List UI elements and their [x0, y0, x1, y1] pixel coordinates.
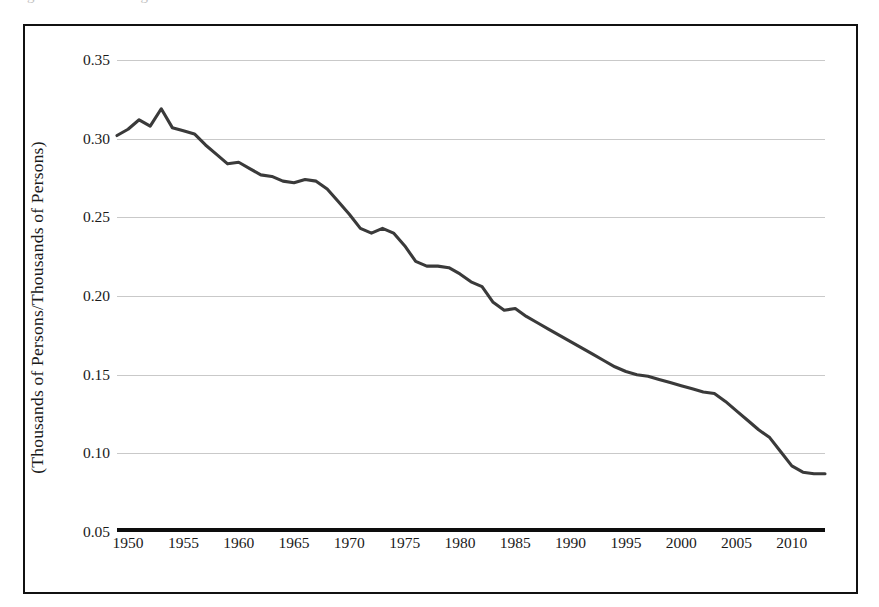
y-axis-title: (Thousands of Persons/Thousands of Perso… [24, 62, 50, 552]
x-axis-tick-label: 1965 [279, 534, 310, 552]
caption-remnant: Figure 3. Ratio of Agricultural Workers … [0, 0, 879, 12]
x-axis-tick-label: 1975 [389, 534, 420, 552]
plot-area [117, 60, 825, 532]
x-axis-tick-label: 1985 [500, 534, 531, 552]
x-axis-tick-label: 1950 [113, 534, 144, 552]
series-line-chart [117, 60, 825, 532]
x-axis-tick-label: 2000 [666, 534, 697, 552]
x-axis-tick-label: 1970 [334, 534, 365, 552]
x-axis-tick-labels: 1950195519601965197019751980198519901995… [117, 534, 825, 558]
caption-remnant-text: Figure 3. Ratio of Agricultural Workers … [14, 0, 371, 3]
x-axis-tick-label: 1955 [168, 534, 199, 552]
y-axis-title-text: (Thousands of Persons/Thousands of Perso… [27, 141, 48, 473]
x-axis-tick-label: 1980 [444, 534, 475, 552]
figure-container: Figure 3. Ratio of Agricultural Workers … [0, 0, 879, 607]
x-axis-tick-label: 1960 [223, 534, 254, 552]
y-axis-tick-label: 0.10 [83, 444, 110, 462]
x-axis-tick-label: 1995 [610, 534, 641, 552]
x-axis-line [117, 528, 825, 532]
y-axis-tick-label: 0.15 [83, 366, 110, 384]
y-axis-tick-labels: 0.050.100.150.200.250.300.35 [60, 60, 110, 532]
y-axis-tick-label: 0.35 [83, 51, 110, 69]
x-axis-tick-label: 2010 [776, 534, 807, 552]
series-line-ratio [117, 109, 825, 474]
y-axis-tick-label: 0.25 [83, 208, 110, 226]
x-axis-tick-label: 1990 [555, 534, 586, 552]
y-axis-tick-label: 0.20 [83, 287, 110, 305]
y-axis-tick-label: 0.05 [83, 523, 110, 541]
y-axis-tick-label: 0.30 [83, 130, 110, 148]
x-axis-tick-label: 2005 [721, 534, 752, 552]
